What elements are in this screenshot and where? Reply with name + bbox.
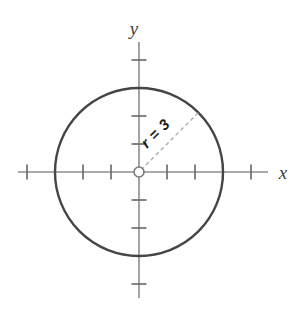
figure-background (0, 0, 299, 321)
y-axis-label: y (128, 18, 139, 39)
x-axis-label: x (278, 162, 288, 183)
figure-root: r = 3 y x (0, 0, 299, 321)
coordinate-plane-graph: r = 3 y x (0, 0, 299, 321)
origin-marker (134, 167, 144, 177)
